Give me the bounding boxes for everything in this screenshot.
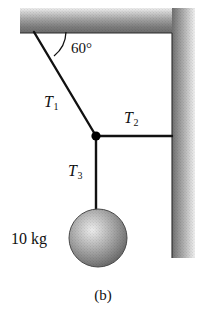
- ceiling-support-icon: [20, 8, 195, 33]
- rope-junction-node-icon: [91, 131, 100, 140]
- physics-free-body-figure: T1 T2 T3 60° 10 kg (b): [0, 0, 206, 320]
- mass-label: 10 kg: [11, 231, 47, 247]
- tension-1-label: T1: [44, 94, 58, 112]
- hanging-mass-sphere-icon: [69, 209, 127, 267]
- figure-caption: (b): [0, 288, 206, 303]
- tension-2-label: T2: [124, 110, 138, 128]
- angle-label: 60°: [71, 41, 92, 56]
- diagram-canvas: [0, 0, 206, 320]
- angle-arc-icon: [54, 32, 66, 56]
- wall-support-icon: [172, 8, 195, 258]
- tension-3-label: T3: [68, 163, 82, 181]
